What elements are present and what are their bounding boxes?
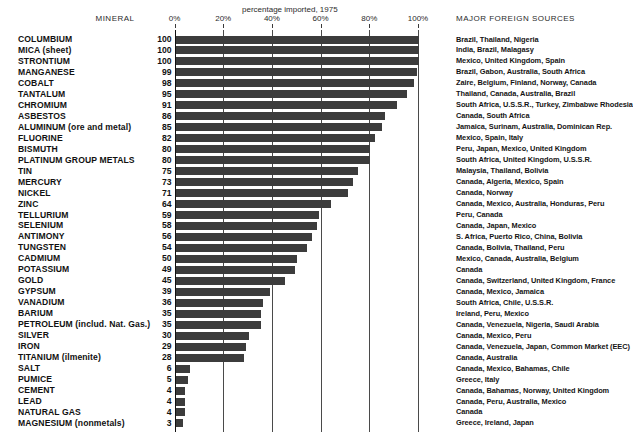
x-axis-tick-mark: [418, 24, 419, 28]
chart-axis-title: percentage imported, 1975: [242, 5, 338, 14]
foreign-sources-label: Greece, Ireland, Japan: [456, 418, 534, 427]
value-bar: [176, 419, 183, 427]
x-axis-tick-label: 80%: [361, 14, 377, 23]
x-axis-tick-mark: [272, 24, 273, 28]
x-axis-tick-label: 0%: [169, 14, 181, 23]
x-axis-tick-mark: [175, 24, 176, 28]
x-axis-tick-label: 40%: [264, 14, 280, 23]
x-axis-tick-label: 60%: [313, 14, 329, 23]
x-axis-tick-mark: [321, 24, 322, 28]
percentage-value: 3: [142, 418, 172, 428]
plot-area: COLUMBIUM100Brazil, Thailand, NigeriaMIC…: [0, 30, 627, 435]
x-axis-tick-label: 100%: [408, 14, 428, 23]
x-axis-tick-mark: [369, 24, 370, 28]
x-axis-tick-mark: [223, 24, 224, 28]
x-axis-tick-label: 20%: [215, 14, 231, 23]
mineral-column-header: MINERAL: [60, 14, 170, 23]
sources-column-header: MAJOR FOREIGN SOURCES: [456, 14, 575, 23]
chart-row: MAGNESIUM (nonmetals)3Greece, Ireland, J…: [0, 416, 627, 435]
